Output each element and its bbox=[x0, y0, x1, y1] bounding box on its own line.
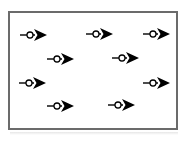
arrow-glyph bbox=[143, 77, 170, 89]
arrow-head bbox=[100, 28, 113, 40]
arrow-origin-circle bbox=[54, 56, 60, 62]
figure-root bbox=[0, 0, 190, 143]
arrow-origin-circle bbox=[27, 32, 33, 38]
arrow-head bbox=[157, 77, 170, 89]
arrow-origin-circle bbox=[150, 80, 156, 86]
vector-field-plot bbox=[0, 0, 190, 143]
arrow-glyph bbox=[19, 77, 46, 89]
arrow-glyph bbox=[86, 28, 113, 40]
arrow-origin-circle bbox=[115, 102, 121, 108]
page-edge-shadow bbox=[10, 132, 178, 135]
arrow-head bbox=[157, 28, 170, 40]
arrow-glyph bbox=[47, 100, 74, 112]
arrow-head bbox=[33, 77, 46, 89]
arrow-origin-circle bbox=[93, 31, 99, 37]
arrow-head bbox=[126, 52, 139, 64]
arrow-layer bbox=[19, 28, 170, 112]
arrow-head bbox=[61, 53, 74, 65]
arrow-head bbox=[61, 100, 74, 112]
arrow-glyph bbox=[47, 53, 74, 65]
arrow-origin-circle bbox=[26, 80, 32, 86]
arrow-glyph bbox=[112, 52, 139, 64]
arrow-glyph bbox=[20, 29, 47, 41]
arrow-head bbox=[122, 99, 135, 111]
arrow-glyph bbox=[108, 99, 135, 111]
arrow-origin-circle bbox=[54, 103, 60, 109]
arrow-glyph bbox=[143, 28, 170, 40]
arrow-head bbox=[34, 29, 47, 41]
arrow-origin-circle bbox=[119, 55, 125, 61]
arrow-origin-circle bbox=[150, 31, 156, 37]
